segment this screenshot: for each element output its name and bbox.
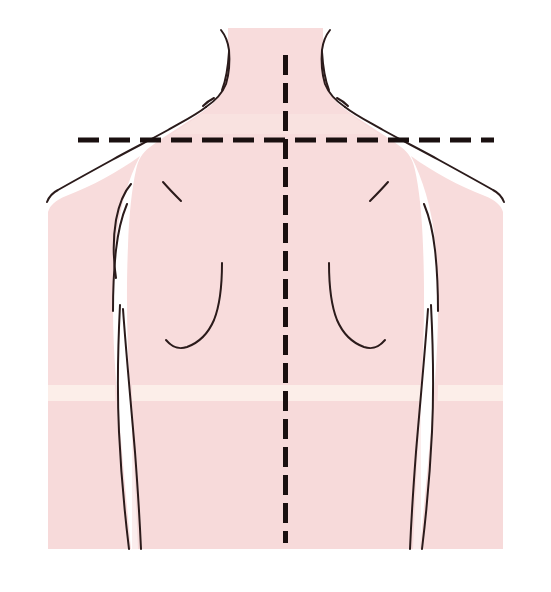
- anatomy-figure: Posterior view of human upper back with …: [0, 0, 551, 592]
- band-mid-light: [0, 385, 551, 401]
- band-lower-tone: [0, 400, 551, 549]
- band-upper: [0, 114, 551, 134]
- anatomy-illustration: [0, 0, 551, 592]
